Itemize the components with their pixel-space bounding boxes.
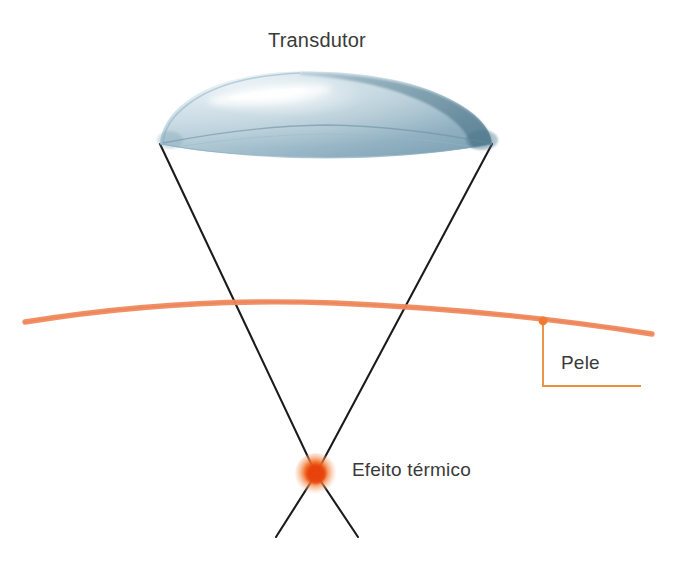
transducer-right-tip-shade xyxy=(466,130,498,150)
thermal-focal-core xyxy=(307,465,326,484)
skin-surface-line-texture xyxy=(25,302,652,334)
skin-leader-dot xyxy=(539,317,548,326)
ultrasound-transducer-diagram: Transdutor Efeito térmico Pele xyxy=(0,0,690,562)
diagram-canvas xyxy=(0,0,690,562)
thermal-effect-label: Efeito térmico xyxy=(352,459,471,481)
skin-surface-group xyxy=(25,302,652,334)
transducer-left-tip-shade xyxy=(157,131,183,149)
skin-label: Pele xyxy=(561,352,600,374)
skin-surface-line xyxy=(25,302,652,334)
transducer-label: Transdutor xyxy=(268,29,366,52)
transducer-dome xyxy=(157,72,498,158)
transducer-sheen xyxy=(160,72,492,157)
thermal-focal-point xyxy=(295,453,337,495)
